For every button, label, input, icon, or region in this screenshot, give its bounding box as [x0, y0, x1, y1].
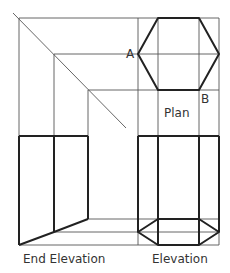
plan-label: Plan: [164, 107, 190, 119]
end-elevation-label: End Elevation: [23, 253, 105, 265]
elevation-shape: [138, 136, 219, 245]
point-b-label: B: [201, 93, 209, 105]
orthographic-projection-diagram: A B Plan End Elevation Elevation: [0, 0, 230, 273]
point-a-label: A: [126, 48, 134, 60]
45-degree-mitre-line: [13, 13, 126, 128]
projection-drawing: [0, 0, 230, 273]
elevation-label: Elevation: [152, 253, 208, 265]
end-elevation-shape: [19, 136, 88, 245]
construction-lines: [13, 13, 219, 245]
